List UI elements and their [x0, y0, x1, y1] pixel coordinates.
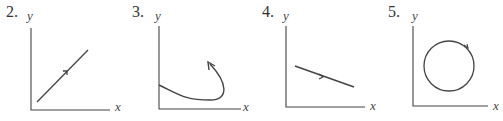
- graph-5: [380, 0, 503, 121]
- figure-3: 3. y x: [125, 0, 255, 121]
- figure-4: 4. y x: [255, 0, 380, 121]
- graph-2: [0, 0, 125, 121]
- graph-4: [255, 0, 380, 121]
- graph-3: [125, 0, 255, 121]
- figure-2: 2. y x: [0, 0, 125, 121]
- figure-5: 5. y x: [380, 0, 503, 121]
